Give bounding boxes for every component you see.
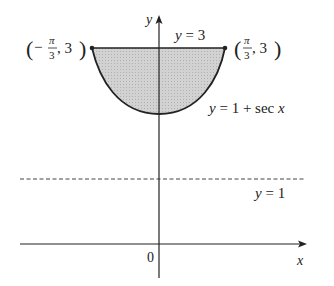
svg-text:): ) bbox=[79, 36, 86, 61]
left-endpoint bbox=[90, 46, 95, 51]
left-point-label: ( − π 3 , 3 ) bbox=[26, 34, 86, 61]
svg-text:(: ( bbox=[26, 36, 33, 61]
right-point-label: ( π 3 , 3 ) bbox=[234, 34, 281, 61]
svg-text:π: π bbox=[244, 34, 250, 46]
svg-text:, 3: , 3 bbox=[252, 40, 267, 56]
svg-text:): ) bbox=[274, 36, 281, 61]
svg-text:π: π bbox=[49, 34, 55, 46]
svg-text:(: ( bbox=[234, 36, 241, 61]
line-y-3-label: y = 3 bbox=[173, 27, 205, 43]
secant-region-diagram: y x 0 y = 3 y = 1 + sec x y = 1 ( − π 3 … bbox=[0, 0, 334, 286]
asymptote-label: y = 1 bbox=[253, 185, 285, 201]
svg-text:−: − bbox=[34, 39, 42, 55]
origin-label: 0 bbox=[147, 250, 154, 265]
x-axis-label: x bbox=[296, 253, 304, 268]
svg-text:, 3: , 3 bbox=[57, 40, 72, 56]
svg-text:3: 3 bbox=[244, 49, 250, 61]
curve-label: y = 1 + sec x bbox=[207, 100, 285, 116]
right-endpoint bbox=[223, 46, 228, 51]
y-axis-label: y bbox=[144, 12, 153, 27]
svg-text:3: 3 bbox=[49, 49, 55, 61]
